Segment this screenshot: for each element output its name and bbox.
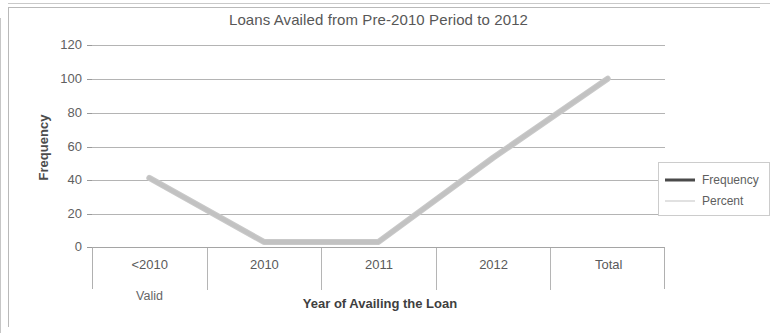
x-tick-label-2: 2011 bbox=[365, 257, 393, 272]
y-tick-label-80: 80 bbox=[30, 107, 82, 119]
line-chart: Loans Availed from Pre-2010 Period to 20… bbox=[0, 0, 770, 333]
x-category-band-0: <2010 bbox=[93, 248, 208, 290]
page-top-edge bbox=[8, 3, 770, 4]
x-tick-label-3: 2012 bbox=[479, 257, 508, 272]
legend-label-frequency: Frequency bbox=[702, 173, 759, 187]
y-tick-label-20: 20 bbox=[30, 208, 82, 220]
legend-item-frequency: Frequency bbox=[663, 169, 769, 190]
x-axis-title: Year of Availing the Loan bbox=[180, 296, 580, 311]
x-category-band-4: Total bbox=[551, 248, 666, 290]
plot-area bbox=[92, 45, 665, 247]
chart-title: Loans Availed from Pre-2010 Period to 20… bbox=[92, 11, 665, 28]
legend-label-percent: Percent bbox=[702, 194, 743, 208]
x-axis-categories: <2010 2010 2011 2012 Total bbox=[92, 247, 665, 289]
percent-line-swatch-icon bbox=[663, 196, 697, 206]
series-line-frequency bbox=[149, 79, 607, 242]
x-category-band-2: 2011 bbox=[322, 248, 437, 290]
y-tick-label-40: 40 bbox=[30, 174, 82, 186]
gridlines bbox=[92, 46, 665, 215]
y-tick-label-100: 100 bbox=[30, 73, 82, 85]
plot-canvas bbox=[92, 45, 665, 247]
y-tick-label-60: 60 bbox=[30, 141, 82, 153]
x-tick-label-4: Total bbox=[595, 257, 622, 272]
x-category-band-3: 2012 bbox=[437, 248, 552, 290]
x-category-band-1: 2010 bbox=[208, 248, 323, 290]
x-tick-label-0: <2010 bbox=[132, 257, 169, 272]
legend-item-percent: Percent bbox=[663, 190, 769, 211]
y-tick-label-0: 0 bbox=[30, 241, 82, 253]
page-left-edge bbox=[0, 18, 1, 333]
chart-legend: Frequency Percent bbox=[658, 162, 770, 216]
y-tick-label-120: 120 bbox=[30, 39, 82, 51]
frequency-line-swatch-icon bbox=[663, 175, 697, 185]
x-tick-label-1: 2010 bbox=[250, 257, 279, 272]
